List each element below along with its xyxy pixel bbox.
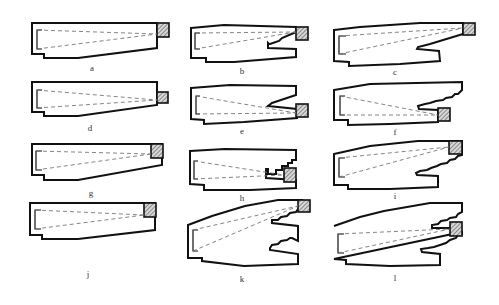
- panel-i: [334, 141, 462, 189]
- hatched-block: [144, 203, 156, 217]
- panel-label-l: l: [385, 273, 405, 283]
- hatched-block: [157, 92, 168, 103]
- hatched-block: [151, 144, 163, 158]
- hatched-block: [298, 200, 310, 212]
- panel-d: [32, 82, 168, 116]
- hatched-block: [438, 108, 450, 121]
- hatched-block: [450, 222, 462, 236]
- panel-f: [334, 82, 462, 125]
- panel-label-e: e: [232, 126, 252, 136]
- panel-g: [32, 144, 163, 180]
- panel-c: [334, 23, 475, 66]
- panel-label-f: f: [385, 127, 405, 137]
- hatched-block: [463, 23, 475, 35]
- hatched-block: [296, 27, 308, 40]
- hatched-block: [157, 23, 169, 37]
- hatched-block: [284, 168, 296, 182]
- panel-b: [191, 25, 308, 62]
- panel-h: [190, 149, 296, 190]
- panel-label-c: c: [385, 67, 405, 77]
- panel-label-h: h: [232, 193, 252, 203]
- panel-label-g: g: [81, 188, 101, 198]
- panel-label-j: j: [78, 269, 98, 279]
- panel-label-i: i: [385, 191, 405, 201]
- panel-k: [188, 200, 310, 266]
- panel-j: [30, 203, 156, 239]
- hatched-block: [449, 141, 462, 154]
- diagram-figure: [0, 0, 499, 305]
- hatched-block: [296, 104, 308, 117]
- panel-label-d: d: [80, 123, 100, 133]
- panel-label-k: k: [232, 274, 252, 284]
- panel-label-b: b: [232, 66, 252, 76]
- panel-l: [334, 203, 462, 266]
- panel-a: [32, 23, 169, 58]
- panel-e: [191, 85, 308, 124]
- panel-label-a: a: [82, 63, 102, 73]
